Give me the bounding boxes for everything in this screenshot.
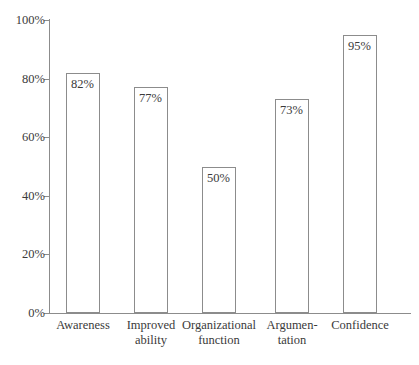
bar[interactable] <box>343 35 377 313</box>
bar-value-label: 50% <box>207 172 230 185</box>
bar-chart: 0%20%40%60%80%100% 82%77%50%73%95% Aware… <box>0 0 419 365</box>
y-tick-label: 40% <box>22 190 45 202</box>
bar-value-label: 77% <box>139 92 162 105</box>
y-axis-line <box>49 19 50 314</box>
bar[interactable] <box>134 87 168 313</box>
x-axis-line <box>49 313 411 314</box>
y-tick-label: 60% <box>22 131 45 143</box>
plot-area: 0%20%40%60%80%100% 82%77%50%73%95% Aware… <box>0 0 419 365</box>
bar-value-label: 82% <box>71 78 94 91</box>
x-category-label: Awareness <box>44 318 122 333</box>
y-tick-label: 80% <box>22 73 45 85</box>
x-category-label: Argumen- tation <box>255 318 329 347</box>
y-tick-label: 100% <box>16 14 45 26</box>
bar[interactable] <box>202 167 236 314</box>
x-category-label: Organizational function <box>176 318 262 347</box>
bar[interactable] <box>275 99 309 313</box>
bar-value-label: 73% <box>280 104 303 117</box>
bar[interactable] <box>66 73 100 313</box>
x-category-label: Confidence <box>319 318 401 333</box>
y-tick-label: 20% <box>22 248 45 260</box>
bar-value-label: 95% <box>348 40 371 53</box>
y-tick-label: 0% <box>28 307 45 319</box>
